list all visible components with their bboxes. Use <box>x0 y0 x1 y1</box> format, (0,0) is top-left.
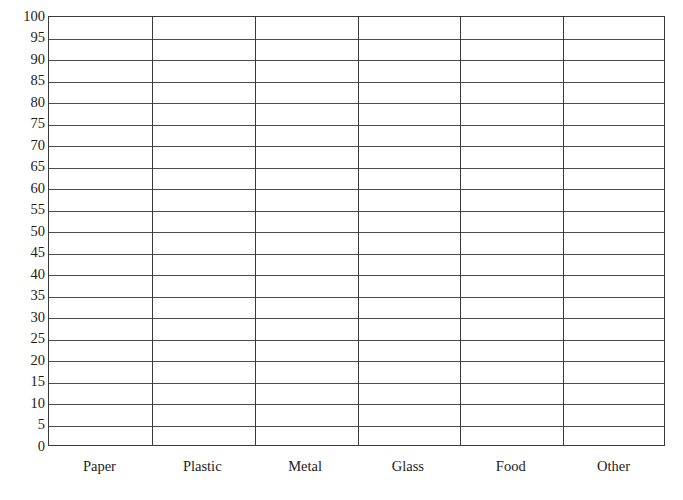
bar-chart-grid: 1009590858075706560555045403530252015105… <box>0 0 683 500</box>
x-tick-label: Paper <box>48 456 151 480</box>
y-tick-label: 40 <box>0 267 45 282</box>
y-tick-label: 30 <box>0 310 45 325</box>
gridline-horizontal <box>49 39 664 40</box>
y-tick-label: 60 <box>0 181 45 196</box>
x-axis: PaperPlasticMetalGlassFoodOther <box>48 456 665 480</box>
y-tick-label: 25 <box>0 331 45 346</box>
x-tick-label: Food <box>459 456 562 480</box>
y-tick-label: 65 <box>0 159 45 174</box>
gridline-horizontal <box>49 275 664 276</box>
gridline-vertical <box>152 17 153 445</box>
y-tick-label: 85 <box>0 73 45 88</box>
x-tick-label: Plastic <box>151 456 254 480</box>
plot-area <box>48 16 665 446</box>
y-tick-label: 5 <box>0 417 45 432</box>
x-tick-label: Glass <box>356 456 459 480</box>
gridline-horizontal <box>49 254 664 255</box>
y-tick-label: 50 <box>0 224 45 239</box>
gridline-vertical <box>563 17 564 445</box>
gridline-vertical <box>358 17 359 445</box>
gridline-horizontal <box>49 146 664 147</box>
y-tick-label: 45 <box>0 245 45 260</box>
x-tick-label: Other <box>562 456 665 480</box>
gridline-horizontal <box>49 297 664 298</box>
plot-inner <box>49 17 664 445</box>
y-axis: 1009590858075706560555045403530252015105… <box>0 0 45 500</box>
gridline-horizontal <box>49 168 664 169</box>
gridline-horizontal <box>49 125 664 126</box>
y-tick-label: 100 <box>0 9 45 24</box>
y-tick-label: 80 <box>0 95 45 110</box>
y-tick-label: 90 <box>0 52 45 67</box>
gridline-horizontal <box>49 103 664 104</box>
y-tick-label: 75 <box>0 116 45 131</box>
gridline-horizontal <box>49 60 664 61</box>
y-tick-label: 10 <box>0 396 45 411</box>
y-tick-label: 35 <box>0 288 45 303</box>
gridline-horizontal <box>49 426 664 427</box>
gridline-horizontal <box>49 211 664 212</box>
y-tick-label: 20 <box>0 353 45 368</box>
gridline-horizontal <box>49 189 664 190</box>
gridline-horizontal <box>49 82 664 83</box>
gridline-vertical <box>460 17 461 445</box>
gridline-horizontal <box>49 232 664 233</box>
gridline-horizontal <box>49 404 664 405</box>
y-tick-label: 15 <box>0 374 45 389</box>
gridline-horizontal <box>49 340 664 341</box>
gridline-horizontal <box>49 361 664 362</box>
gridline-horizontal <box>49 383 664 384</box>
gridline-vertical <box>255 17 256 445</box>
y-tick-label: 0 <box>0 439 45 454</box>
y-tick-label: 55 <box>0 202 45 217</box>
y-tick-label: 70 <box>0 138 45 153</box>
x-tick-label: Metal <box>254 456 357 480</box>
y-tick-label: 95 <box>0 30 45 45</box>
gridline-horizontal <box>49 318 664 319</box>
